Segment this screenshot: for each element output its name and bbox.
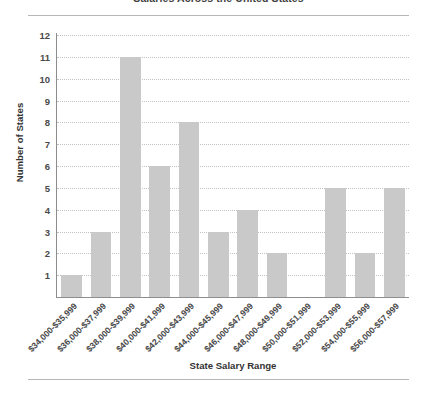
- bar: [384, 188, 405, 297]
- y-tick-label: 11: [24, 51, 50, 62]
- y-tick-label: 1: [24, 270, 50, 281]
- y-tick-label: 3: [24, 226, 50, 237]
- top-divider-rule: [28, 15, 409, 16]
- bar-chart-figure: Salaries Across the United States Number…: [0, 0, 437, 393]
- x-axis-tick-labels: $34,000-$35,999$36,000-$37,999$38,000-$3…: [57, 299, 409, 357]
- y-tick-label: 4: [24, 204, 50, 215]
- y-tick-label: 8: [24, 117, 50, 128]
- bar: [149, 166, 170, 297]
- bar: [61, 275, 82, 297]
- bar: [237, 210, 258, 297]
- x-axis-title: State Salary Range: [57, 360, 409, 371]
- bar: [120, 57, 141, 297]
- bar: [91, 232, 112, 298]
- bottom-divider-rule: [28, 379, 409, 380]
- plot-area: [57, 35, 409, 297]
- y-tick-label: 7: [24, 139, 50, 150]
- y-tick-label: 6: [24, 161, 50, 172]
- y-tick-label: 9: [24, 95, 50, 106]
- y-tick-label: 10: [24, 73, 50, 84]
- bar: [179, 122, 200, 297]
- bar: [325, 188, 346, 297]
- bar: [208, 232, 229, 298]
- chart-title: Salaries Across the United States: [0, 0, 437, 4]
- bar: [355, 253, 376, 297]
- bar-series: [57, 35, 409, 297]
- bar: [267, 253, 288, 297]
- y-tick-label: 2: [24, 248, 50, 259]
- y-tick-label: 12: [24, 30, 50, 41]
- y-tick-label: 5: [24, 182, 50, 193]
- y-axis-tick-labels: 123456789101112: [20, 35, 50, 297]
